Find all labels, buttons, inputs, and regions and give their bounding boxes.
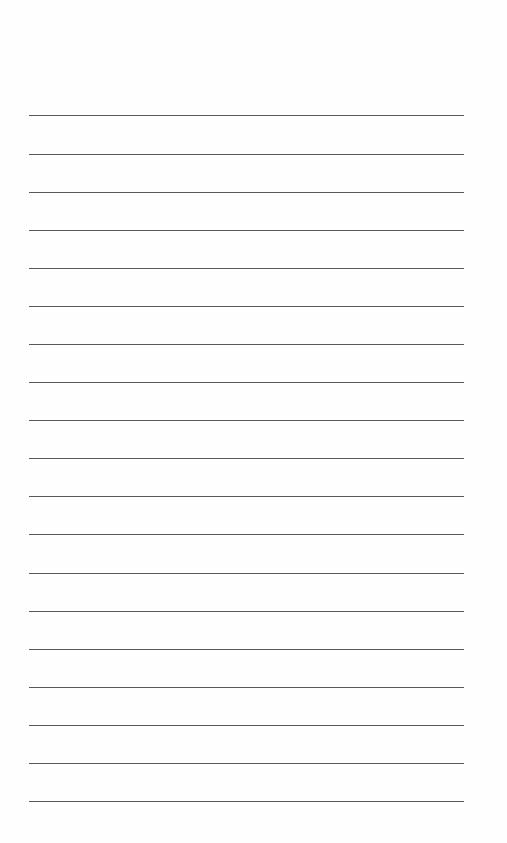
ruled-line [29,344,464,345]
ruled-line [29,801,464,802]
ruled-line [29,306,464,307]
ruled-line [29,192,464,193]
ruled-line [29,763,464,764]
ruled-line [29,154,464,155]
ruled-line [29,649,464,650]
ruled-line [29,725,464,726]
ruled-line [29,268,464,269]
ruled-line [29,534,464,535]
lined-paper-sheet [0,0,507,843]
ruled-line [29,230,464,231]
ruled-line [29,611,464,612]
ruled-line [29,115,464,116]
ruled-line [29,420,464,421]
ruled-line [29,496,464,497]
ruled-line [29,687,464,688]
ruled-line [29,458,464,459]
ruled-line [29,382,464,383]
ruled-line [29,573,464,574]
